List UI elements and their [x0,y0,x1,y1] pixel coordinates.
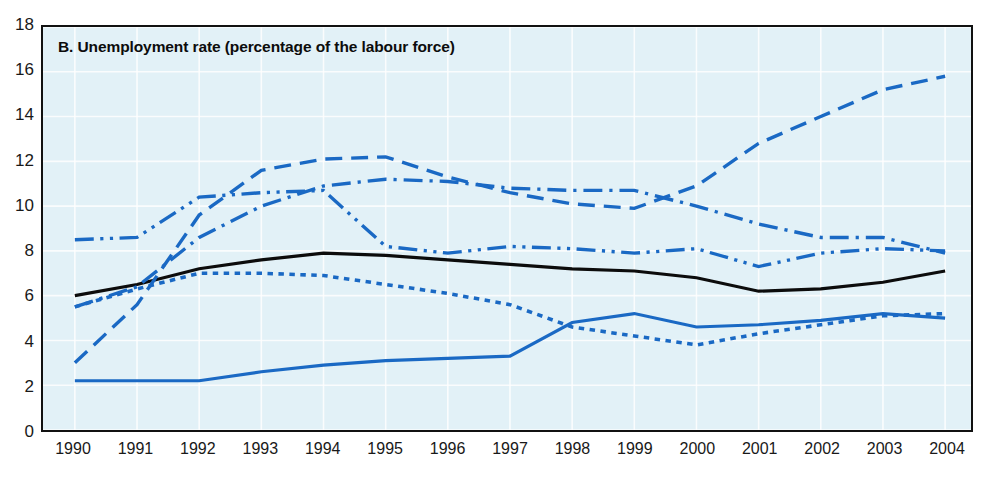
data-lines [43,27,971,430]
x-axis: 1990199119921993199419951996199719981999… [41,440,973,470]
x-tick-label: 1992 [180,440,216,458]
x-tick-label: 1995 [367,440,403,458]
x-tick-label: 2003 [867,440,903,458]
x-tick-label: 1993 [242,440,278,458]
y-tick-label: 8 [0,242,34,259]
y-tick-label: 2 [0,378,34,395]
x-tick-label: 1991 [118,440,154,458]
x-tick-label: 2004 [929,440,965,458]
y-axis: 024681012141618 [0,0,34,479]
x-tick-label: 2002 [804,440,840,458]
x-tick-label: 1994 [305,440,341,458]
x-tick-label: 1997 [492,440,528,458]
figure-panel-b: 024681012141618 B. Unemployment rate (pe… [0,0,1005,479]
y-tick-label: 6 [0,287,34,304]
y-tick-label: 10 [0,197,34,214]
series-solid-blue [75,314,945,381]
y-tick-label: 18 [0,16,34,33]
y-tick-label: 0 [0,423,34,440]
x-tick-label: 1998 [555,440,591,458]
x-tick-label: 1996 [430,440,466,458]
plot-area [41,25,973,432]
x-tick-label: 1999 [617,440,653,458]
x-tick-label: 2001 [742,440,778,458]
y-tick-label: 14 [0,106,34,123]
y-tick-label: 16 [0,61,34,78]
series-dash-dot-dot-blue [75,190,945,266]
y-tick-label: 4 [0,333,34,350]
panel-title: B. Unemployment rate (percentage of the … [58,38,455,56]
series-dotted-blue [75,273,945,345]
x-tick-label: 2000 [679,440,715,458]
x-tick-label: 1990 [55,440,91,458]
y-tick-label: 12 [0,152,34,169]
